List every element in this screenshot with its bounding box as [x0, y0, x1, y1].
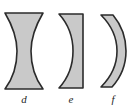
- lens-label-f: f: [103, 94, 123, 105]
- lens-label-e: e: [61, 94, 81, 105]
- lens-figure: d e f: [0, 0, 134, 111]
- lens-label-d: d: [14, 94, 34, 105]
